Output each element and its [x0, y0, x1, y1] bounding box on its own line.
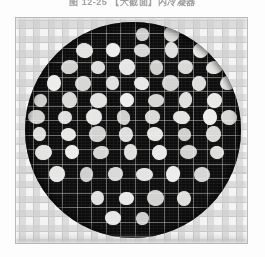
figure-caption: 图 12-25 【大截面】内冷凝器 [0, 0, 265, 8]
scanned-page: 图 12-25 【大截面】内冷凝器 [0, 0, 265, 257]
disc-vignette [25, 22, 241, 238]
figure-frame [15, 17, 248, 244]
figure-caption-strip: 图 12-25 【大截面】内冷凝器 [0, 0, 265, 9]
specimen-disc [25, 22, 241, 238]
scan-smudge [16, 233, 248, 243]
